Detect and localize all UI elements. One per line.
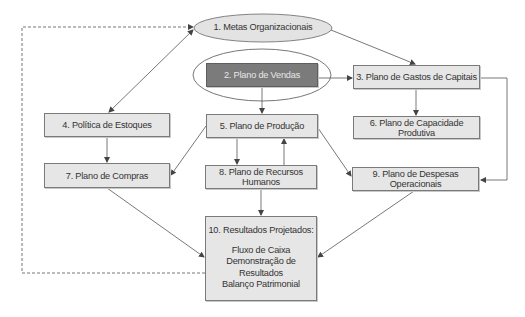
- node-10-resultados-projetados: 10. Resultados Projetados: Fluxo de Caix…: [205, 216, 317, 301]
- node-10-title: 10. Resultados Projetados:: [208, 225, 313, 237]
- node-6-plano-capacidade-produtiva: 6. Plano de Capacidade Produtiva: [353, 116, 480, 139]
- edge-3-9: [480, 78, 507, 180]
- node-3-plano-gastos-capitais: 3. Plano de Gastos de Capitais: [353, 65, 480, 89]
- edge-1-3: [331, 30, 415, 64]
- node-10-line-demonstracao: Demonstração de Resultados: [206, 256, 316, 279]
- edge-9-10: [318, 191, 414, 257]
- node-1-label: 1. Metas Organizacionais: [194, 22, 332, 32]
- node-9-plano-despesas-operacionais: 9. Plano de Despesas Operacionais: [352, 167, 479, 191]
- node-8-plano-recursos-humanos: 8. Plano de Recursos Humanos: [205, 165, 317, 189]
- node-4-politica-estoques: 4. Política de Estoques: [44, 113, 170, 137]
- node-5-plano-producao: 5. Plano de Produção: [206, 114, 318, 138]
- edge-5-7: [171, 126, 206, 175]
- node-2-plano-de-vendas: 2. Plano de Vendas: [206, 63, 318, 87]
- edge-5-9: [318, 128, 351, 176]
- edge-7-10: [107, 188, 204, 257]
- edge-1-4: [109, 30, 193, 112]
- node-10-line-balanco: Balanço Patrimonial: [222, 279, 300, 291]
- node-10-line-fluxo-caixa: Fluxo de Caixa: [232, 245, 290, 257]
- edge-10-to-1-feedback: [22, 27, 205, 273]
- node-7-plano-compras: 7. Plano de Compras: [44, 163, 170, 188]
